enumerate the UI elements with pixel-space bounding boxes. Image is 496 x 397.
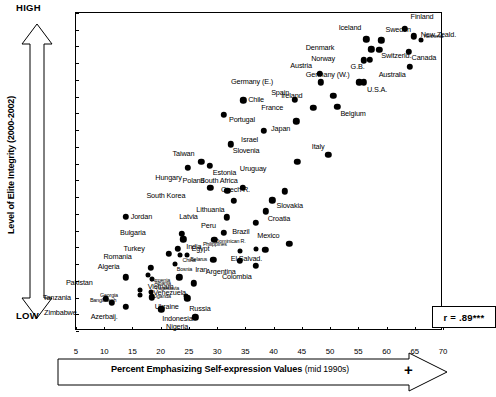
data-point bbox=[237, 249, 242, 254]
data-point bbox=[158, 306, 164, 312]
data-point-label: Denmark bbox=[306, 44, 335, 51]
plot-area: 1.051.000.950.900.850.800.750.700.650.60… bbox=[75, 12, 442, 330]
data-point bbox=[406, 63, 412, 69]
y-axis-tick-mark bbox=[76, 197, 79, 198]
data-point-label: Australia bbox=[379, 71, 406, 78]
data-point-label: Algeria bbox=[98, 263, 120, 270]
data-point bbox=[325, 152, 331, 158]
data-point-label: Sweden bbox=[385, 26, 410, 33]
data-point-label: Germany (W.) bbox=[306, 71, 350, 78]
x-axis-tick-mark bbox=[189, 327, 190, 330]
data-point bbox=[147, 265, 153, 271]
y-axis-tick-mark bbox=[76, 331, 79, 332]
y-axis-tick-mark bbox=[76, 298, 79, 299]
data-point bbox=[230, 198, 236, 204]
y-axis-tick-mark bbox=[76, 80, 79, 81]
data-point-label: Mexico bbox=[257, 232, 279, 239]
x-axis-tick-mark bbox=[132, 327, 133, 330]
data-point-label: U.S.A. bbox=[367, 86, 387, 93]
data-point-label: Finland bbox=[411, 13, 434, 20]
data-point-label: South Korea bbox=[146, 192, 185, 199]
x-axis-tick-mark bbox=[302, 327, 303, 330]
data-point-label: Brazil bbox=[232, 228, 249, 235]
data-point bbox=[286, 240, 292, 246]
data-point-label: France bbox=[261, 104, 283, 111]
y-axis-tick-mark bbox=[76, 130, 79, 131]
y-axis-tick-mark bbox=[76, 63, 79, 64]
data-point bbox=[378, 37, 384, 43]
axis-low-label: LOW bbox=[16, 310, 39, 321]
data-point bbox=[138, 292, 143, 297]
data-point bbox=[185, 253, 190, 258]
y-axis-tick-mark bbox=[76, 113, 79, 114]
vertical-direction-arrow bbox=[20, 22, 54, 320]
data-point-label: Iceland bbox=[339, 24, 361, 31]
data-point bbox=[252, 220, 258, 226]
data-point-label: Philippines bbox=[203, 242, 227, 247]
data-point bbox=[368, 46, 374, 52]
x-axis-tick-mark bbox=[76, 327, 77, 330]
y-axis-tick-mark bbox=[76, 97, 79, 98]
data-point-label: Belgium bbox=[340, 110, 365, 117]
correlation-box: r = .89*** bbox=[432, 306, 496, 328]
data-point bbox=[252, 263, 258, 269]
data-point bbox=[363, 36, 369, 42]
x-axis-tick-mark bbox=[104, 327, 105, 330]
data-point-label: Peru bbox=[201, 222, 216, 229]
data-point bbox=[210, 257, 216, 263]
data-point bbox=[410, 33, 416, 39]
data-point-label: Pakistan bbox=[66, 279, 93, 286]
x-axis-title: Percent Emphasizing Self-expression Valu… bbox=[90, 364, 370, 374]
data-point bbox=[192, 314, 198, 320]
y-axis-tick-mark bbox=[76, 147, 79, 148]
x-axis-title-bold: Percent Emphasizing Self-expression Valu… bbox=[111, 364, 302, 374]
data-point-label: Japan bbox=[271, 125, 290, 132]
data-point bbox=[207, 185, 213, 191]
x-axis-tick-mark bbox=[415, 327, 416, 330]
data-point bbox=[366, 56, 372, 62]
data-point bbox=[174, 246, 180, 252]
data-point bbox=[282, 188, 288, 194]
data-point-label: Tanzania bbox=[43, 294, 71, 301]
data-point bbox=[293, 118, 299, 124]
data-point-label: Colombia bbox=[222, 273, 252, 280]
x-axis-tick-mark bbox=[387, 327, 388, 330]
data-point bbox=[165, 250, 171, 256]
data-point-label: Poland bbox=[183, 177, 205, 184]
data-point-label: Lithuania bbox=[196, 206, 224, 213]
data-point-label: Russia bbox=[189, 305, 210, 312]
data-point bbox=[221, 112, 227, 118]
data-point-label: Uganda bbox=[153, 294, 171, 299]
data-point bbox=[191, 280, 197, 286]
data-point bbox=[262, 246, 268, 252]
x-axis-title-sub: (mid 1990s) bbox=[305, 364, 349, 374]
data-point-label: Azerbaij. bbox=[91, 313, 118, 320]
data-point bbox=[237, 258, 243, 264]
data-point-label: South Africa bbox=[200, 177, 238, 184]
data-point bbox=[318, 79, 324, 85]
data-point-label: Netherld. bbox=[424, 34, 444, 39]
data-point bbox=[108, 300, 114, 306]
data-point-label: Jordan bbox=[131, 213, 152, 220]
data-point bbox=[253, 246, 258, 251]
data-point bbox=[122, 214, 128, 220]
correlation-label: r = .89*** bbox=[444, 312, 485, 323]
y-axis-tick-mark bbox=[76, 247, 79, 248]
data-point bbox=[224, 214, 230, 220]
data-point-label: Yugoslavia bbox=[155, 286, 179, 291]
data-point bbox=[198, 159, 204, 165]
x-axis-tick-mark bbox=[245, 327, 246, 330]
data-point-label: Italy bbox=[312, 143, 325, 150]
x-axis-tick-mark bbox=[217, 327, 218, 330]
data-point-label: Belarus bbox=[190, 257, 207, 262]
y-axis-tick-mark bbox=[76, 180, 79, 181]
data-point bbox=[122, 274, 128, 280]
data-point-label: Slovakia bbox=[276, 202, 302, 209]
data-point-label: Zimbabwe bbox=[44, 309, 76, 316]
data-point bbox=[292, 96, 298, 102]
data-point-label: Latvia bbox=[179, 213, 198, 220]
data-point-label: Canada bbox=[412, 54, 437, 61]
data-point-label: Taiwan bbox=[173, 150, 195, 157]
x-axis-tick-mark bbox=[358, 327, 359, 330]
